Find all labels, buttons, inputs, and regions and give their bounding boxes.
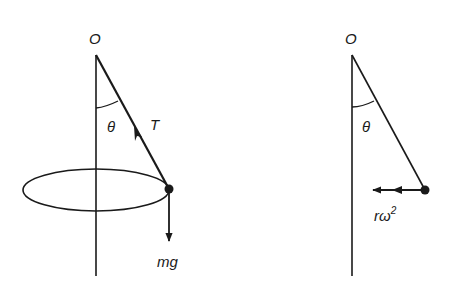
- tension-label: T: [150, 116, 161, 133]
- conical-pendulum-diagram: O θ T mg O θ rω2: [0, 0, 450, 291]
- weight-label: mg: [157, 253, 178, 270]
- right-angle-arc: [352, 101, 374, 107]
- left-angle-label: θ: [107, 118, 115, 135]
- acceleration-label: rω2: [374, 205, 397, 224]
- right-pivot-label: O: [345, 30, 357, 47]
- acceleration-label-sup: 2: [390, 205, 397, 216]
- acceleration-double-arrow-icon: [392, 186, 402, 194]
- right-angle-label: θ: [362, 118, 370, 135]
- left-angle-arc: [96, 101, 118, 108]
- acceleration-label-base: rω: [374, 207, 391, 224]
- left-pivot-label: O: [89, 30, 101, 47]
- left-diagram: O θ T mg: [23, 30, 178, 276]
- right-diagram: O θ rω2: [345, 30, 430, 276]
